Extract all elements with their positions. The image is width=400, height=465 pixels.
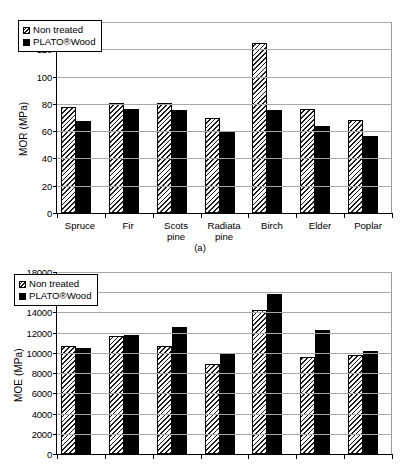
y-tick-label: 8000 — [32, 369, 52, 379]
bar-group — [248, 22, 296, 213]
bar — [172, 110, 187, 213]
bar-group — [344, 22, 392, 213]
x-tick-mark — [57, 454, 58, 459]
x-axis-ticks-mor — [57, 213, 392, 218]
bar — [363, 351, 378, 454]
y-tick-label: 40 — [42, 154, 52, 164]
plot-frame-mor: 020406080100120140 — [56, 22, 392, 214]
x-axis-label: Elder — [296, 220, 344, 242]
gridline — [57, 104, 392, 105]
bar — [252, 43, 267, 213]
legend-item-plato: PLATO®Wood — [19, 290, 92, 302]
solid-swatch-icon — [19, 293, 26, 300]
x-tick-mark — [296, 454, 297, 459]
bar — [109, 336, 124, 454]
bar-group — [105, 22, 153, 213]
bar — [205, 364, 220, 454]
bar-group — [153, 272, 201, 454]
x-tick-mark — [105, 454, 106, 459]
bar-groups-moe — [57, 272, 392, 454]
x-tick-mark — [153, 454, 154, 459]
x-axis-label: Fir — [104, 220, 152, 242]
gridline — [57, 414, 392, 415]
x-tick-mark — [392, 213, 393, 218]
bar — [76, 121, 91, 213]
x-axis-labels-mor: SpruceFirScotspineRadiatapineBirchElderP… — [56, 220, 392, 242]
bar — [220, 354, 235, 454]
y-tick-label: 14000 — [27, 308, 52, 318]
y-tick-mark — [53, 393, 57, 394]
x-tick-mark — [296, 213, 297, 218]
bar-group — [344, 272, 392, 454]
x-tick-mark — [392, 454, 393, 459]
bar — [267, 110, 282, 213]
gridline — [57, 434, 392, 435]
legend-label-plato: PLATO®Wood — [29, 290, 92, 302]
bar — [315, 330, 330, 454]
bar-group — [201, 22, 249, 213]
figure-page: MOR (MPa) 020406080100120140 Non treated… — [0, 0, 400, 465]
bar — [205, 118, 220, 213]
bar-group — [248, 272, 296, 454]
chart-moe: MOE (MPa) 020004000600080001000012000140… — [0, 262, 400, 465]
x-axis-ticks-moe — [57, 454, 392, 459]
bar — [220, 132, 235, 213]
gridline — [57, 22, 392, 23]
y-tick-label: 12000 — [27, 328, 52, 338]
y-tick-mark — [53, 158, 57, 159]
bar-group — [153, 22, 201, 213]
x-tick-mark — [201, 213, 202, 218]
bar-group — [296, 272, 344, 454]
y-tick-mark — [53, 272, 57, 273]
y-tick-label: 10000 — [27, 348, 52, 358]
x-tick-mark — [344, 454, 345, 459]
gridline — [57, 158, 392, 159]
y-tick-label: 2000 — [32, 429, 52, 439]
legend-label-non-treated: Non treated — [29, 278, 79, 290]
y-tick-label: 4000 — [32, 409, 52, 419]
gridline — [57, 131, 392, 132]
y-tick-mark — [53, 213, 57, 214]
bar — [76, 348, 91, 454]
hatch-swatch-icon — [23, 27, 30, 34]
gridline — [57, 353, 392, 354]
y-tick-mark — [53, 131, 57, 132]
legend-mor: Non treated PLATO®Wood — [18, 20, 102, 52]
legend-label-plato: PLATO®Wood — [33, 36, 96, 48]
y-tick-label: 20 — [42, 181, 52, 191]
x-tick-mark — [57, 213, 58, 218]
y-tick-label: 100 — [37, 72, 52, 82]
x-axis-label: Birch — [248, 220, 296, 242]
gridline — [57, 292, 392, 293]
bar — [267, 294, 282, 454]
y-axis-title-mor: MOR (MPa) — [18, 102, 29, 156]
bar — [300, 109, 315, 213]
y-tick-mark — [53, 454, 57, 455]
bar — [61, 107, 76, 213]
gridline — [57, 312, 392, 313]
bar — [363, 136, 378, 213]
hatch-swatch-icon — [19, 281, 26, 288]
x-axis-label: Poplar — [344, 220, 392, 242]
y-tick-mark — [53, 104, 57, 105]
bar — [172, 327, 187, 454]
y-tick-mark — [53, 77, 57, 78]
chart-mor: MOR (MPa) 020406080100120140 Non treated… — [0, 6, 400, 256]
y-tick-mark — [53, 353, 57, 354]
bar — [157, 346, 172, 454]
x-tick-mark — [248, 213, 249, 218]
x-tick-mark — [248, 454, 249, 459]
x-axis-label: Scotspine — [152, 220, 200, 242]
y-tick-label: 0 — [47, 450, 52, 460]
y-tick-label: 6000 — [32, 389, 52, 399]
legend-item-non-treated: Non treated — [19, 278, 92, 290]
legend-item-non-treated: Non treated — [23, 24, 96, 36]
y-tick-label: 60 — [42, 127, 52, 137]
legend-label-non-treated: Non treated — [33, 24, 83, 36]
bar-group — [201, 272, 249, 454]
bar-group — [296, 22, 344, 213]
y-tick-mark — [53, 373, 57, 374]
gridline — [57, 333, 392, 334]
y-tick-mark — [53, 414, 57, 415]
plot-frame-moe: 0200040006000800010000120001400016000180… — [56, 272, 392, 455]
